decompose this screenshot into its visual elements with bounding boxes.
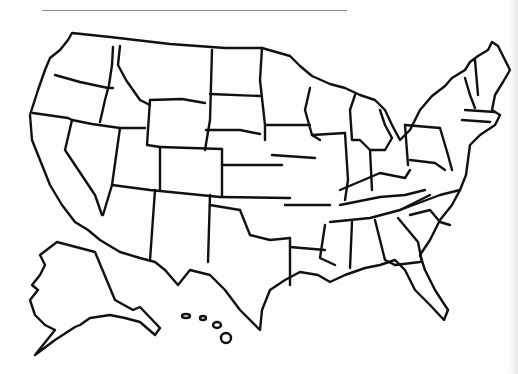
id-mt-line	[118, 46, 150, 105]
nh-me-line	[475, 60, 478, 95]
ut-az-line	[112, 185, 220, 197]
hawaii-island-3	[213, 322, 221, 328]
ny-nj-line	[440, 128, 452, 170]
ma-line	[465, 110, 495, 112]
nv-ut-line	[103, 128, 120, 215]
ct-ri-line	[462, 120, 490, 122]
wa-or-line	[55, 75, 113, 88]
ar-la-line	[290, 247, 325, 250]
ia-mo-line	[272, 155, 315, 158]
us-outline	[30, 33, 510, 330]
hawaii-island-2	[200, 316, 206, 320]
sd-ne-line	[206, 130, 260, 134]
ks-ok-line	[220, 197, 290, 198]
ca-nv-line	[65, 120, 102, 215]
or-id-nv-line	[72, 120, 145, 128]
wa-id-line	[100, 47, 113, 122]
nc-sc-line	[410, 210, 450, 225]
la-ms-line	[320, 225, 335, 265]
page-edge-shadow	[510, 0, 518, 374]
hawaii-island-big	[221, 333, 231, 343]
in-oh-line	[370, 150, 372, 190]
mt-nd-line	[205, 50, 212, 150]
ok-tx-line	[210, 205, 290, 240]
ky-north-line	[340, 170, 410, 190]
az-nm-line	[150, 190, 155, 260]
us-outline-map	[0, 0, 518, 374]
ga-sc-line	[398, 218, 422, 262]
worksheet-page	[0, 0, 518, 374]
al-ga-line	[375, 220, 395, 265]
dakotas-mn	[260, 48, 265, 140]
wy-west	[147, 100, 160, 147]
wy-co-line	[160, 147, 222, 149]
hawaii-island-1	[182, 314, 190, 318]
vt-nh-lines	[465, 78, 475, 108]
pa-south-line	[410, 160, 445, 170]
wi-il-line	[312, 133, 345, 135]
or-ca-line	[33, 113, 72, 120]
il-in-line	[345, 133, 348, 200]
nd-sd-line	[210, 94, 260, 96]
mt-wy-line	[150, 99, 205, 103]
ms-al-line	[350, 222, 352, 268]
mi-outline	[350, 95, 392, 150]
mn-wi-line	[305, 88, 320, 140]
